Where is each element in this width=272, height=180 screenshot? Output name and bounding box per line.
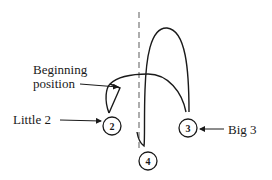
beat-3-number: 3 (186, 123, 191, 134)
little-2-arrow (60, 120, 101, 121)
big-3-label: Big 3 (228, 122, 257, 137)
beat-3-marker: 3 (179, 119, 197, 137)
conducting-diagram: Beginning position Little 2 Big 3 2 3 4 (0, 0, 272, 180)
beat-2-marker: 2 (103, 117, 121, 135)
beginning-loop (109, 84, 120, 113)
beginning-label-line1: Beginning (33, 62, 88, 77)
beat-4-number: 4 (146, 156, 151, 167)
little-2-label: Little 2 (13, 112, 51, 127)
beat-2-number: 2 (110, 121, 115, 132)
beginning-label-line2: position (33, 76, 75, 91)
beat-4-marker: 4 (139, 152, 157, 170)
